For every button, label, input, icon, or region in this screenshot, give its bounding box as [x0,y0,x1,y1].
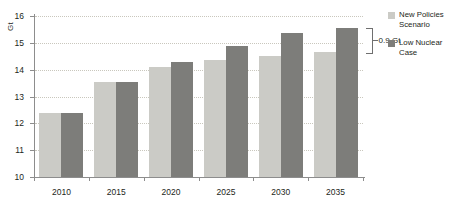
gridline [35,16,363,17]
bar [281,33,303,177]
y-axis-tick-label: 12 [15,118,24,128]
bar-chart: Gt 10111213141516 2010201520202025203020… [0,0,451,204]
x-axis-tick [199,177,200,181]
y-axis-tick-label: 15 [15,38,24,48]
bar [259,56,281,177]
x-axis-tick-label: 2035 [326,187,345,197]
x-axis-tick [89,177,90,181]
x-axis-tick-label: 2010 [52,187,71,197]
legend-label: Low Nuclear Case [399,38,451,57]
x-axis-tick-label: 2025 [216,187,235,197]
y-axis-tick: 12 [30,123,34,124]
x-axis-tick [308,177,309,181]
x-axis-tick-label: 2020 [162,187,181,197]
annotation-bracket-stem [373,40,378,41]
bar [336,28,358,177]
bar [171,62,193,177]
bar [39,113,61,177]
y-axis-tick: 14 [30,70,34,71]
bar [314,52,336,177]
y-axis-tick-label: 14 [15,65,24,75]
y-axis-tick-label: 11 [15,145,24,155]
bar [61,113,83,177]
plot-area: 10111213141516 201020152020202520302035 … [34,16,363,177]
y-axis-tick: 11 [30,150,34,151]
y-axis-unit-label: Gt [6,14,15,40]
y-axis-tick-label: 13 [15,92,24,102]
y-axis-tick-label: 16 [15,11,24,21]
x-axis-tick [144,177,145,181]
legend-label: New Policies Scenario [399,10,451,29]
y-axis-tick-label: 10 [15,172,24,182]
legend-item[interactable]: New Policies Scenario [388,10,451,29]
bar [116,82,138,177]
x-axis-tick [253,177,254,181]
bar [149,67,171,177]
legend-item[interactable]: Low Nuclear Case [388,38,451,57]
x-axis-tick-label: 2015 [107,187,126,197]
legend-swatch [388,40,395,47]
bar [94,82,116,177]
y-axis-tick: 16 [30,16,34,17]
y-axis-tick: 13 [30,97,34,98]
annotation-bracket [366,28,373,54]
gridline [35,43,363,44]
bar [204,60,226,177]
legend-swatch [388,12,395,19]
y-axis-tick: 15 [30,43,34,44]
x-axis-tick [34,177,35,181]
x-axis-tick-label: 2030 [271,187,290,197]
chart-legend: New Policies ScenarioLow Nuclear Case [388,10,451,66]
bar [226,46,248,177]
x-axis-tick [363,177,364,181]
